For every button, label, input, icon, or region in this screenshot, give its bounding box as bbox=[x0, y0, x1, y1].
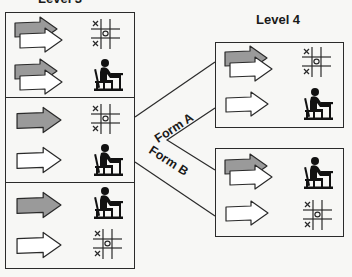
form-connector-lines bbox=[0, 0, 352, 277]
